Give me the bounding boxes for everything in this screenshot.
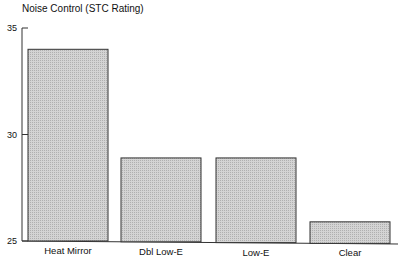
bar-low-e xyxy=(216,158,296,243)
bar-clear xyxy=(310,222,390,244)
y-tick-label: 35 xyxy=(7,23,17,33)
y-tick-label: 30 xyxy=(7,130,17,140)
x-tick-label: Dbl Low-E xyxy=(139,246,183,257)
x-tick-label: Low-E xyxy=(243,247,270,258)
x-tick-label: Heat Mirror xyxy=(44,245,92,256)
bar-dbl-low-e xyxy=(121,158,201,242)
y-tick-label: 25 xyxy=(7,236,17,246)
bar-chart: 253035Heat MirrorDbl Low-ELow-EClear xyxy=(0,0,401,265)
bar-heat-mirror xyxy=(28,49,108,241)
x-tick-label: Clear xyxy=(339,247,362,258)
